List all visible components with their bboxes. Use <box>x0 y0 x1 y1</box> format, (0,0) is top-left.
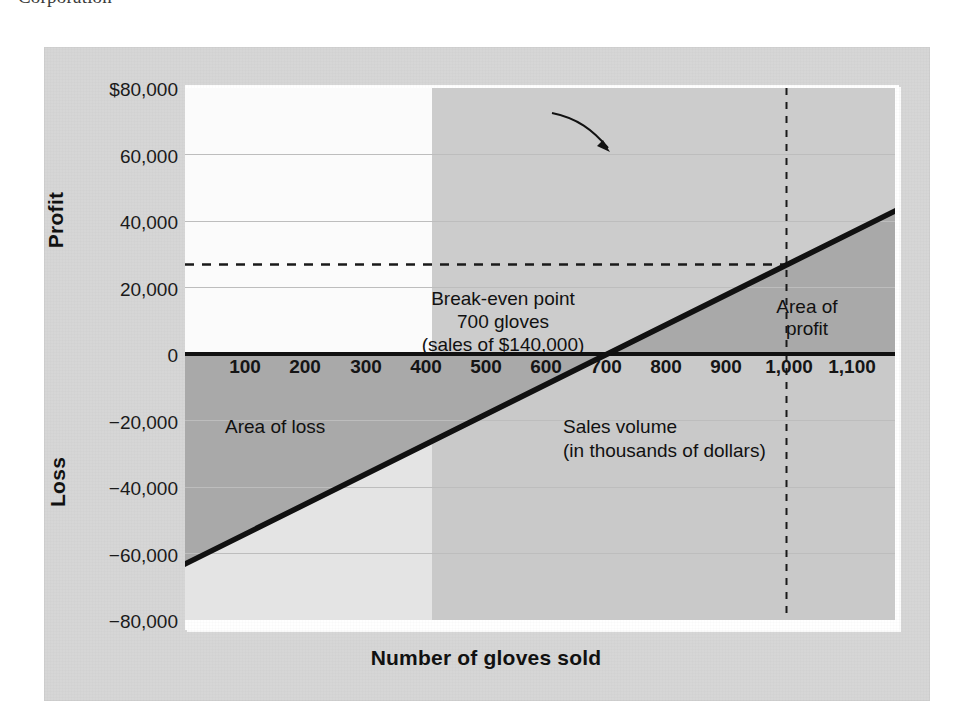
x-tick-1100: 1,100 <box>828 356 876 378</box>
y-tick-60000: 60,000 <box>70 147 178 166</box>
y-tick-0: 0 <box>70 346 178 365</box>
y-tick-neg80000: −80,000 <box>70 612 178 631</box>
x-tick-100: 100 <box>229 356 261 378</box>
y-axis-title-loss: Loss <box>46 457 70 507</box>
y-axis-title-profit: Profit <box>44 192 68 249</box>
x-axis-title: Number of gloves sold <box>0 646 972 670</box>
area-of-profit-label: Area of profit <box>752 296 862 340</box>
break-even-annotation: Break-even point 700 gloves (sales of $1… <box>358 287 648 356</box>
x-tick-700: 700 <box>590 356 622 378</box>
x-tick-400: 400 <box>410 356 442 378</box>
y-tick-20000: 20,000 <box>70 280 178 299</box>
y-tick-40000: 40,000 <box>70 213 178 232</box>
x-tick-500: 500 <box>470 356 502 378</box>
x-tick-900: 900 <box>710 356 742 378</box>
y-axis-labels: $80,000 60,000 40,000 20,000 0 −20,000 −… <box>62 0 178 728</box>
y-tick-neg40000: −40,000 <box>70 479 178 498</box>
x-tick-800: 800 <box>650 356 682 378</box>
x-tick-200: 200 <box>289 356 321 378</box>
y-tick-80000: $80,000 <box>70 80 178 99</box>
y-tick-neg60000: −60,000 <box>70 546 178 565</box>
area-of-loss-label: Area of loss <box>225 415 325 438</box>
x-tick-300: 300 <box>350 356 382 378</box>
sales-volume-label: Sales volume (in thousands of dollars) <box>563 415 766 463</box>
x-tick-600: 600 <box>530 356 562 378</box>
x-axis-labels: 100 200 300 400 500 600 700 800 900 1,00… <box>185 356 895 382</box>
x-tick-1000: 1,000 <box>765 356 813 378</box>
y-tick-neg20000: −20,000 <box>70 413 178 432</box>
